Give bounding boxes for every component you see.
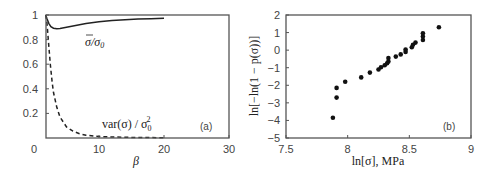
y-tick-label: −4 [267, 114, 280, 126]
data-point [437, 25, 442, 30]
panel-a-label: (a) [200, 121, 212, 132]
y-tick-label: 0.6 [23, 58, 38, 70]
y-tick-label: 0.2 [23, 107, 38, 119]
x-tick-label: 9 [468, 143, 474, 155]
y-tick-label: 0.4 [23, 83, 38, 95]
y-tick-label: −1 [267, 62, 280, 74]
y-tick-label: 2 [274, 9, 280, 21]
x-tick-label: 30 [223, 143, 235, 155]
panel-b-y-axis-label: ln[−ln(1 − p(σ))] [247, 36, 261, 117]
data-point [421, 31, 426, 36]
sigma-mean-curve [46, 15, 164, 29]
x-tick-label: 8 [345, 143, 351, 155]
panel-b-label: (b) [443, 121, 455, 132]
data-point [398, 52, 403, 57]
data-point [331, 116, 336, 121]
data-point [386, 56, 391, 61]
data-point [334, 86, 339, 91]
figure: 0.20.40.60.81 0102030 β σ/σ0 var(σ) / σ0… [0, 0, 492, 177]
y-tick-label: −2 [267, 79, 280, 91]
x-tick-label: 0 [31, 143, 37, 155]
data-point [359, 75, 364, 80]
y-tick-label: 1 [274, 27, 280, 39]
y-tick-label: 1 [32, 9, 38, 21]
x-tick-label: 7.5 [278, 143, 293, 155]
data-point [343, 80, 348, 85]
panel-a: 0.20.40.60.81 0102030 β σ/σ0 var(σ) / σ0… [23, 9, 235, 168]
y-tick-label: 0.8 [23, 34, 38, 46]
panel-b: 210−1−2−3−4−5 7.588.59 ln[σ], MPa ln[−ln… [247, 9, 474, 168]
y-tick-label: −3 [267, 97, 280, 109]
data-point [368, 70, 373, 75]
x-tick-label: 10 [93, 143, 105, 155]
sigma-mean-curve-label: σ/σ0 [85, 35, 104, 50]
y-tick-label: 0 [274, 44, 280, 56]
panel-b-scatter-points [331, 25, 442, 120]
data-point [394, 54, 399, 59]
variance-curve-label: var(σ) / σ02 [102, 115, 152, 133]
panel-b-x-axis-label: ln[σ], MPa [352, 154, 405, 168]
data-point [334, 95, 339, 100]
data-point [403, 47, 408, 52]
x-tick-label: 20 [158, 143, 170, 155]
panel-b-frame [286, 15, 471, 138]
panel-a-y-ticks: 0.20.40.60.81 [23, 9, 49, 119]
data-point [413, 40, 418, 45]
panel-a-x-axis-label: β [132, 154, 139, 168]
